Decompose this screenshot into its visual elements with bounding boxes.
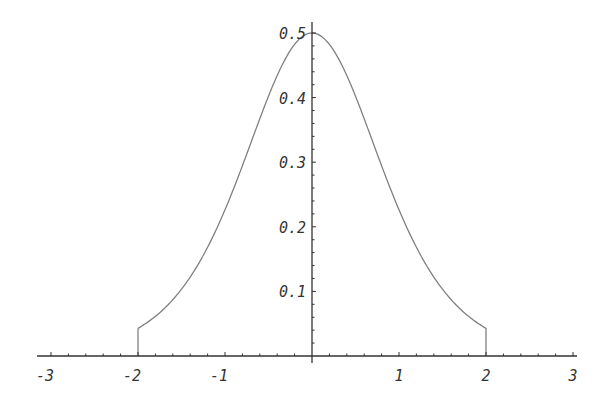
x-tick-label: -2 xyxy=(123,367,141,385)
x-tick-label: -3 xyxy=(36,367,54,385)
y-tick-label: 0.5 xyxy=(279,25,306,43)
tick-labels: -3-2-11230.10.20.30.40.5 xyxy=(36,25,578,385)
x-tick-label: 2 xyxy=(481,367,490,385)
x-tick-label: -1 xyxy=(210,367,228,385)
axes xyxy=(37,22,577,363)
y-tick-label: 0.4 xyxy=(279,90,306,108)
y-tick-label: 0.1 xyxy=(279,283,306,301)
y-tick-label: 0.3 xyxy=(279,154,306,172)
y-tick-label: 0.2 xyxy=(279,219,306,237)
x-tick-label: 3 xyxy=(567,367,577,385)
x-tick-label: 1 xyxy=(394,367,403,385)
plot-canvas: -3-2-11230.10.20.30.40.5 xyxy=(0,0,612,404)
